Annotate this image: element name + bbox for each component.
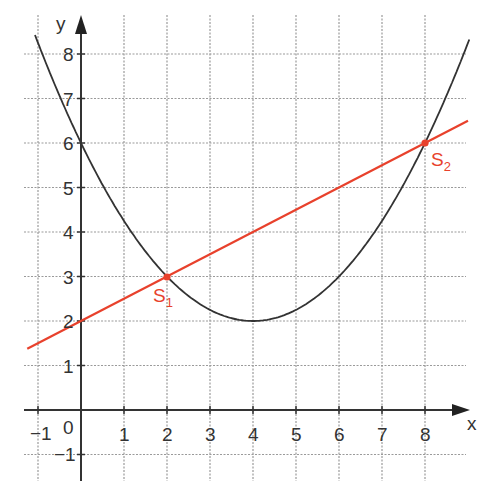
y-axis-label: y	[56, 13, 66, 34]
y-tick-label-3: 3	[63, 267, 74, 288]
y-tick-label-1: 1	[63, 356, 74, 377]
y-tick-label-2: 2	[63, 311, 74, 332]
y-tick-label-5: 5	[63, 178, 74, 199]
x-tick-label-7: 7	[377, 424, 388, 445]
y-tick-label-6: 6	[63, 133, 74, 154]
y-tick-label-neg1: −1	[54, 444, 76, 465]
axis-ticks	[38, 54, 425, 455]
x-axis-label: x	[467, 413, 477, 434]
parabola-curve	[35, 35, 469, 321]
s2-label: S2	[431, 149, 451, 174]
x-tick-label-3: 3	[205, 424, 216, 445]
y-axis-arrow-icon	[75, 15, 87, 34]
coordinate-plot: S1 S2 y x −1 0 1 2 3 4 5 6 7 8 −1 1 2 3 …	[0, 0, 489, 497]
grid	[24, 15, 466, 481]
x-tick-label-2: 2	[162, 424, 173, 445]
s1-label: S1	[153, 285, 173, 310]
linear-function-line	[27, 121, 468, 349]
y-tick-label-4: 4	[63, 222, 74, 243]
x-tick-label-5: 5	[291, 424, 302, 445]
x-tick-label-4: 4	[248, 424, 259, 445]
x-tick-label-neg1: −1	[30, 423, 52, 444]
y-tick-label-7: 7	[63, 89, 74, 110]
y-tick-label-8: 8	[63, 44, 74, 65]
intersection-point-s1	[163, 273, 170, 280]
x-tick-label-1: 1	[119, 424, 130, 445]
origin-label: 0	[63, 417, 74, 438]
x-tick-label-8: 8	[420, 424, 431, 445]
x-tick-label-6: 6	[334, 424, 345, 445]
intersection-point-s2	[421, 139, 428, 146]
axes	[24, 15, 470, 481]
